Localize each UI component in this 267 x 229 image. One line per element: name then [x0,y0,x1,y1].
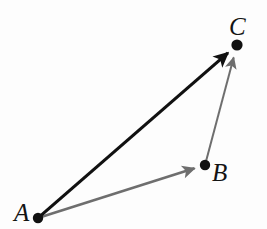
point-dot-c [231,39,242,50]
vector-addition-figure: Sum of Vectors A B C [0,0,267,229]
point-label-c: C [229,14,246,39]
vector-diagram-canvas [0,0,267,229]
vector-arrow-a-to-c [41,53,228,216]
vector-arrow-b-to-c [206,58,234,162]
vector-arrow-a-to-b [42,168,195,216]
point-dot-b [200,160,210,170]
point-label-a: A [14,200,29,225]
point-label-b: B [212,160,227,185]
point-dot-a [33,213,43,223]
